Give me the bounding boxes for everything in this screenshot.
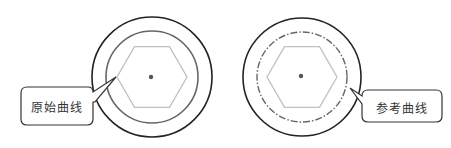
left-panel — [21, 17, 212, 137]
left-center-point — [149, 75, 153, 79]
right-callout-label: 参考曲线 — [362, 99, 442, 116]
diagram-canvas — [0, 0, 451, 148]
right-panel — [243, 18, 442, 136]
left-callout-label: 原始曲线 — [21, 98, 93, 115]
right-center-point — [299, 74, 303, 78]
